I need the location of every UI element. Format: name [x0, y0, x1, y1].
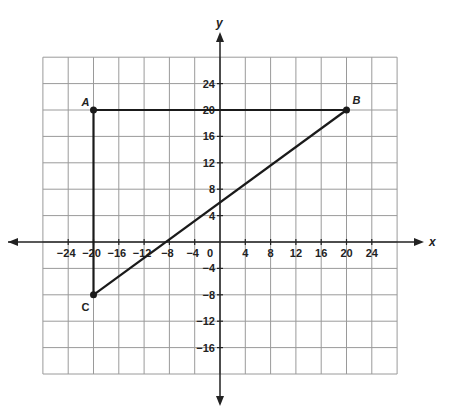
x-axis-right-arrow-icon: [414, 238, 424, 246]
y-tick-label: 16: [203, 130, 215, 142]
point-b: [343, 107, 350, 114]
y-tick-label: 24: [203, 78, 216, 90]
origin-label: 0: [207, 247, 213, 259]
x-tick-label: 24: [366, 247, 379, 259]
y-tick-label: 4: [209, 210, 216, 222]
y-axis-down-arrow-icon: [216, 396, 224, 406]
x-tick-label: −4: [186, 247, 199, 259]
x-axis-left-arrow-icon: [8, 238, 18, 246]
coordinate-plane: x y 0 −24−20−16−12−8−4481216202424201612…: [0, 0, 450, 417]
x-tick-label: 8: [268, 247, 274, 259]
x-tick-label: −16: [107, 247, 126, 259]
point-label-a: A: [81, 96, 90, 108]
y-axis-label: y: [215, 16, 224, 30]
y-tick-label: −16: [196, 342, 215, 354]
y-tick-label: −4: [202, 262, 215, 274]
point-a: [90, 107, 97, 114]
x-tick-label: −8: [161, 247, 174, 259]
y-tick-label: −8: [202, 289, 215, 301]
point-label-b: B: [353, 94, 361, 106]
x-tick-label: −20: [82, 247, 101, 259]
y-tick-label: 12: [203, 157, 215, 169]
x-tick-label: 12: [290, 247, 302, 259]
x-tick-label: 4: [242, 247, 249, 259]
x-tick-label: −24: [57, 247, 77, 259]
x-tick-label: 20: [340, 247, 352, 259]
y-tick-label: 8: [209, 183, 215, 195]
point-c: [90, 291, 97, 298]
x-axis-label: x: [428, 235, 437, 249]
point-label-c: C: [82, 301, 90, 313]
y-axis-up-arrow-icon: [216, 32, 224, 42]
x-tick-label: 16: [315, 247, 327, 259]
x-tick-label: −12: [133, 247, 152, 259]
y-tick-label: −12: [196, 315, 215, 327]
